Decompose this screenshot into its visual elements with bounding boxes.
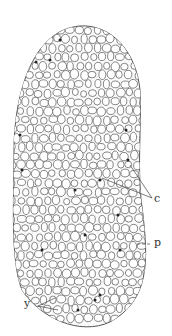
label-c: c [154,193,160,204]
label-p: p [154,237,161,248]
cell-illustration [0,0,172,336]
label-y: y [24,298,30,309]
